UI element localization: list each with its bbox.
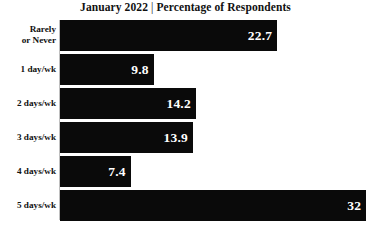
bar-value-label: 22.7 — [248, 29, 272, 43]
category-label-4-days-wk: 4 days/wk — [0, 166, 56, 177]
bar-value-label: 13.9 — [164, 131, 188, 145]
bar-3-days-wk[interactable]: 13.9 — [60, 122, 193, 153]
category-label-3-days-wk: 3 days/wk — [0, 132, 56, 143]
chart-title-metric: Percentage of Respondents — [156, 1, 291, 13]
bar-value-label: 9.8 — [131, 63, 148, 77]
bar-rarely-or-never[interactable]: 22.7 — [60, 20, 277, 51]
category-label-2-days-wk: 2 days/wk — [0, 98, 56, 109]
bar-chart: January 2022|Percentage of Respondents 2… — [0, 0, 371, 244]
category-label-5-days-wk: 5 days/wk — [0, 200, 56, 211]
bar-value-label: 32 — [347, 199, 361, 213]
plot-area: 22.7 9.8 14.2 13.9 7.4 32 — [60, 20, 371, 220]
bar-value-label: 7.4 — [108, 165, 125, 179]
bar-4-days-wk[interactable]: 7.4 — [60, 156, 131, 187]
bar-1-day-wk[interactable]: 9.8 — [60, 54, 154, 85]
chart-title: January 2022|Percentage of Respondents — [0, 1, 371, 13]
bar-2-days-wk[interactable]: 14.2 — [60, 88, 196, 119]
bar-5-days-wk[interactable]: 32 — [60, 190, 366, 221]
category-label-rarely-or-never: Rarely or Never — [0, 24, 56, 46]
bar-value-label: 14.2 — [166, 97, 190, 111]
chart-title-date: January 2022 — [80, 1, 148, 13]
category-label-1-day-wk: 1 day/wk — [0, 64, 56, 75]
